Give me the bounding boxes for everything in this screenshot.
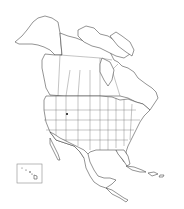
cuba [126, 166, 146, 172]
florida [116, 150, 130, 166]
hawaii-inset-box [17, 164, 42, 183]
baja-california [50, 138, 60, 160]
north-america-outline-map [0, 0, 184, 209]
location-marker-icon [66, 113, 68, 115]
united-states [44, 96, 150, 162]
hispaniola [148, 172, 158, 176]
alaska [15, 16, 62, 55]
puerto-rico [159, 175, 164, 177]
central-america [106, 188, 128, 202]
